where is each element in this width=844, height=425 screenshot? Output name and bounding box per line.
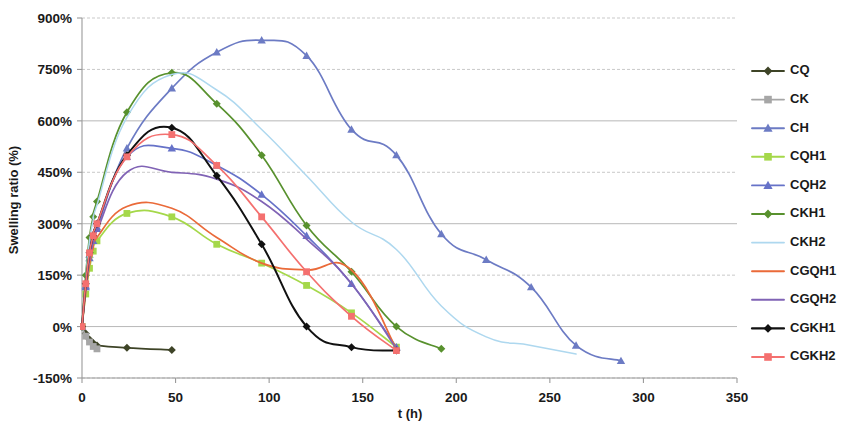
data-point-marker [168,346,176,354]
series-ckh2 [82,73,576,354]
x-axis-title: t (h) [398,406,423,421]
legend-marker-cgkh2 [764,353,772,361]
data-point-marker [123,344,131,352]
data-point-marker [303,282,310,289]
data-point-marker [168,131,175,138]
legend-item-ckh1[interactable]: CKH1 [752,205,825,220]
chart-plot: -150%0%150%300%450%600%750%900% 05010015… [0,0,844,425]
legend-item-ck[interactable]: CK [752,91,809,106]
data-point-marker [168,213,175,220]
data-point-marker [213,48,221,55]
data-point-marker [303,268,310,275]
y-axis-tick-label: 450% [37,165,72,180]
data-point-marker [124,210,131,217]
chart-container: -150%0%150%300%450%600%750%900% 05010015… [0,0,844,425]
data-point-marker [168,124,176,132]
x-axis-tick-label: 250 [539,390,562,405]
data-point-marker [482,256,490,263]
data-point-marker [124,153,131,160]
legend-label-ckh1: CKH1 [790,205,825,220]
x-axis-tick-label: 150 [351,390,374,405]
legend-label-cq: CQ [790,62,810,77]
y-axis-tick-label: 150% [37,268,72,283]
y-axis-tick-label: 300% [37,217,72,232]
legend-marker-ckh1 [764,210,773,219]
data-point-marker [393,347,400,354]
data-point-marker [90,232,97,239]
legend-marker-cqh1 [764,153,772,161]
data-point-marker [347,343,355,351]
series-line-cgqh2 [82,166,396,349]
legend-item-cgkh2[interactable]: CGKH2 [752,348,836,363]
legend-item-cqh2[interactable]: CQH2 [752,177,826,192]
legend-item-cqh1[interactable]: CQH1 [752,148,826,163]
chart-legend: CQCKCHCQH1CQH2CKH1CKH2CGQH1CGQH2CGKH1CGK… [752,62,836,363]
data-point-marker [94,220,101,227]
series-cgqh2 [82,166,396,349]
y-axis-tick-labels: -150%0%150%300%450%600%750%900% [33,11,72,386]
y-axis-tick-label: 750% [37,62,72,77]
data-point-marker [82,280,89,287]
legend-label-cgqh2: CGQH2 [790,291,836,306]
x-axis-tick-label: 200 [445,390,468,405]
y-axis-tick-label: 0% [52,320,72,335]
legend-label-cqh2: CQH2 [790,177,826,192]
legend-marker-cgkh1 [764,324,773,333]
y-axis-title: Swelling ratio (%) [6,146,21,254]
data-point-marker [348,313,355,320]
data-series-layer [78,36,625,364]
data-point-marker [86,249,93,256]
legend-marker-ck [764,96,772,104]
series-line-ckh2 [82,73,576,354]
legend-item-cgqh1[interactable]: CGQH1 [752,263,836,278]
x-axis-tick-label: 350 [726,390,749,405]
x-axis-tick-labels: 050100150200250300350 [78,390,748,405]
y-axis-tick-label: 600% [37,114,72,129]
legend-label-ch: CH [790,120,809,135]
legend-label-ckh2: CKH2 [790,234,825,249]
legend-label-ck: CK [790,91,809,106]
y-axis-tick-label: 900% [37,11,72,26]
x-axis-tick-label: 50 [168,390,183,405]
data-point-marker [213,162,220,169]
legend-label-cgqh1: CGQH1 [790,263,836,278]
legend-label-cqh1: CQH1 [790,148,826,163]
data-point-marker [258,213,265,220]
legend-item-ckh2[interactable]: CKH2 [752,234,825,249]
x-axis-tick-label: 100 [258,390,281,405]
data-point-marker [82,333,89,340]
legend-item-cgkh1[interactable]: CGKH1 [752,320,836,335]
x-axis-tick-label: 0 [78,390,86,405]
legend-label-cgkh1: CGKH1 [790,320,836,335]
legend-item-cgqh2[interactable]: CGQH2 [752,291,836,306]
gridlines [82,18,737,378]
x-axis-tick-label: 300 [632,390,655,405]
legend-item-cq[interactable]: CQ [752,62,810,77]
legend-marker-cq [764,67,773,76]
data-point-marker [213,241,220,248]
legend-item-ch[interactable]: CH [752,120,809,135]
data-point-marker [94,345,101,352]
series-ckh1 [78,69,445,353]
y-axis-tick-label: -150% [33,371,72,386]
series-cgkh2 [79,131,400,354]
legend-label-cgkh2: CGKH2 [790,348,836,363]
data-point-marker [437,345,445,353]
